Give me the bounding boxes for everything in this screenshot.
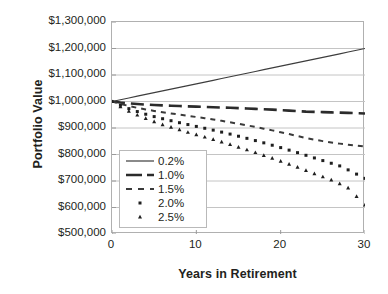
x-axis-tick-label: 30 xyxy=(344,238,384,250)
series-marker xyxy=(195,125,198,128)
series-marker xyxy=(355,173,358,176)
legend-label: 2.5% xyxy=(158,210,184,224)
y-axis-tick-labels: $500,000$600,000$700,000$800,000$900,000… xyxy=(6,0,106,233)
series-marker xyxy=(279,159,283,163)
y-axis-tick-label: $1,300,000 xyxy=(10,15,106,27)
series-marker xyxy=(144,113,147,116)
series-marker xyxy=(347,168,350,171)
series-marker xyxy=(270,156,274,160)
y-axis-tick-label: $900,000 xyxy=(10,121,106,133)
series-marker xyxy=(330,162,333,165)
legend-key-glyph xyxy=(122,168,158,182)
y-axis-tick-label: $1,000,000 xyxy=(10,95,106,107)
series-marker xyxy=(296,165,300,169)
legend-item: 2.0% xyxy=(122,196,202,210)
series-marker xyxy=(313,156,316,159)
y-axis-tick-label: $800,000 xyxy=(10,148,106,160)
series-marker xyxy=(170,119,173,122)
legend-key xyxy=(122,196,158,210)
series-marker xyxy=(338,164,341,167)
series-marker xyxy=(237,135,240,138)
legend-item: 0.2% xyxy=(122,154,202,168)
series-marker xyxy=(363,203,365,207)
legend-key-glyph xyxy=(122,210,158,224)
series-marker xyxy=(304,168,308,172)
legend-key-glyph xyxy=(122,182,158,196)
series-marker xyxy=(161,122,165,126)
series-marker xyxy=(153,115,156,118)
x-axis-tick-label: 20 xyxy=(260,238,300,250)
series-marker xyxy=(287,162,291,166)
x-axis-tick-label: 0 xyxy=(91,238,131,250)
series-marker xyxy=(321,159,324,162)
legend-key xyxy=(122,210,158,224)
legend-key-glyph xyxy=(122,154,158,168)
series-marker xyxy=(135,113,139,117)
series-marker xyxy=(203,135,207,139)
series-marker xyxy=(220,131,223,134)
y-axis-tick-label: $500,000 xyxy=(10,227,106,239)
series-marker xyxy=(212,129,215,132)
y-axis-tick-label: $1,200,000 xyxy=(10,42,106,54)
chart-legend: 0.2%1.0%1.5%2.0%2.5% xyxy=(119,150,207,228)
series-marker xyxy=(321,175,325,179)
series-marker xyxy=(329,178,333,182)
series-marker xyxy=(152,120,156,124)
series-marker xyxy=(279,146,282,149)
legend-label: 1.0% xyxy=(158,168,184,182)
series-marker xyxy=(355,194,359,198)
series-marker xyxy=(186,130,190,134)
series-marker xyxy=(262,141,265,144)
series-marker xyxy=(211,137,215,141)
series-marker xyxy=(228,142,232,146)
series-marker xyxy=(304,154,307,157)
series-marker xyxy=(346,186,350,190)
legend-label: 2.0% xyxy=(158,196,184,210)
series-marker xyxy=(288,149,291,152)
series-marker xyxy=(312,171,316,175)
legend-item: 1.0% xyxy=(122,168,202,182)
legend-key xyxy=(122,168,158,182)
legend-item: 2.5% xyxy=(122,210,202,224)
series-marker xyxy=(186,123,189,126)
series-marker xyxy=(254,139,257,142)
series-marker xyxy=(271,144,274,147)
series-marker xyxy=(169,125,173,129)
series-marker xyxy=(136,110,139,113)
legend-key-glyph xyxy=(122,196,158,210)
series-1-0 xyxy=(112,102,365,114)
y-axis-tick-label: $600,000 xyxy=(10,201,106,213)
series-marker xyxy=(245,137,248,140)
x-axis-title: Years in Retirement xyxy=(111,267,364,281)
y-axis-tick-label: $700,000 xyxy=(10,174,106,186)
series-marker xyxy=(364,177,366,180)
series-marker xyxy=(245,148,249,152)
legend-item: 1.5% xyxy=(122,182,202,196)
series-marker xyxy=(237,145,241,149)
series-marker xyxy=(253,150,257,154)
legend-key xyxy=(122,182,158,196)
series-line xyxy=(112,102,365,114)
series-marker xyxy=(262,153,266,157)
x-axis-tick-label: 10 xyxy=(175,238,215,250)
series-marker xyxy=(203,127,206,130)
series-marker xyxy=(229,133,232,136)
series-marker xyxy=(178,121,181,124)
y-axis-tick-label: $1,100,000 xyxy=(10,68,106,80)
legend-label: 1.5% xyxy=(158,182,184,196)
series-marker xyxy=(144,116,148,120)
series-marker xyxy=(161,117,164,120)
series-marker xyxy=(194,133,198,137)
series-marker xyxy=(220,140,224,144)
series-marker xyxy=(338,182,342,186)
legend-key xyxy=(122,154,158,168)
series-marker xyxy=(296,151,299,154)
legend-label: 0.2% xyxy=(158,154,184,168)
portfolio-value-chart: Portfolio Value $500,000$600,000$700,000… xyxy=(0,0,388,294)
